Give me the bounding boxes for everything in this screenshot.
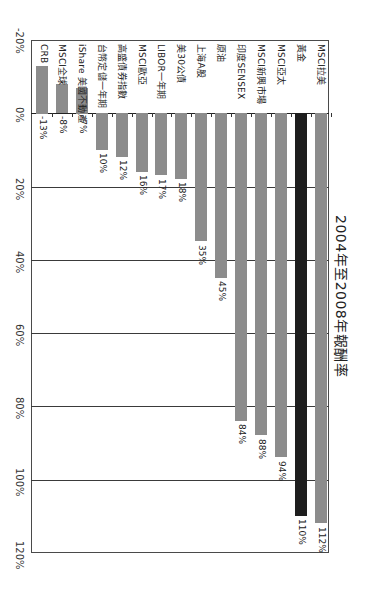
category-label: 原油	[215, 44, 228, 62]
value-label: 94%	[277, 461, 287, 481]
category-label: MSCI亞太	[275, 44, 288, 86]
value-label: -7%	[78, 116, 88, 134]
bar	[36, 66, 48, 114]
category-label: MSCI新興市場	[255, 44, 268, 104]
category-tick	[331, 113, 332, 117]
chart-title: 2004年至2008年報酬率	[332, 215, 352, 377]
category-label: 黃金	[295, 44, 308, 62]
category-tick	[92, 113, 93, 117]
bar	[56, 84, 68, 113]
value-label: 110%	[297, 519, 307, 545]
category-label: MSCI拉美	[315, 44, 328, 86]
y-tick-label: 0%	[14, 107, 25, 123]
bar	[235, 113, 247, 421]
value-label: 112%	[317, 527, 327, 553]
value-label: 12%	[118, 160, 128, 180]
category-tick	[52, 113, 53, 117]
category-label: 高盛債券指數	[116, 44, 129, 99]
bar	[215, 113, 227, 278]
y-tick-label: 120%	[14, 541, 25, 570]
y-tick-label: 80%	[14, 397, 25, 419]
category-tick	[311, 113, 312, 117]
value-label: 16%	[138, 175, 148, 195]
value-label: 88%	[257, 439, 267, 459]
category-label: MSCI歐亞	[136, 44, 149, 86]
category-tick	[231, 113, 232, 117]
value-label: -13%	[38, 116, 48, 139]
bar	[96, 113, 108, 150]
y-tick-label: 100%	[14, 468, 25, 497]
category-tick	[72, 113, 73, 117]
y-tick-label: 60%	[14, 324, 25, 346]
bar	[255, 113, 267, 435]
value-label: 17%	[157, 179, 167, 199]
category-tick	[171, 113, 172, 117]
bar	[275, 113, 287, 457]
value-label: -8%	[58, 116, 68, 134]
bar	[136, 113, 148, 172]
bar-chart: -20%0%20%40%60%80%100%120% CRB-13%MSCI全球…	[0, 0, 365, 596]
category-tick	[112, 113, 113, 117]
y-tick-label: -20%	[14, 28, 25, 54]
category-tick	[251, 113, 252, 117]
bar	[195, 113, 207, 241]
bar	[155, 113, 167, 175]
category-tick	[211, 113, 212, 117]
value-label: 35%	[197, 245, 207, 265]
category-label: 上海A股	[195, 44, 208, 78]
value-label: 18%	[177, 182, 187, 202]
category-label: 台幣定儲一年期	[96, 44, 109, 108]
value-label: 84%	[237, 424, 247, 444]
bar	[315, 113, 327, 523]
bar	[295, 113, 307, 516]
category-tick	[291, 113, 292, 117]
category-label: 美30公債	[175, 44, 188, 83]
value-label: 10%	[98, 153, 108, 173]
category-label: LIBOR一年期	[155, 44, 168, 100]
category-tick	[152, 113, 153, 117]
category-tick	[132, 113, 133, 117]
category-tick	[191, 113, 192, 117]
y-tick-label: 40%	[14, 251, 25, 273]
y-tick-label: 20%	[14, 178, 25, 200]
bar	[116, 113, 128, 157]
category-tick	[271, 113, 272, 117]
value-label: 45%	[217, 281, 227, 301]
category-label: 印度SENSEX	[235, 44, 248, 99]
category-label: MSCI全球	[56, 44, 69, 86]
category-label: CRB	[39, 44, 49, 63]
category-label: iShare 美國不動產	[76, 44, 89, 123]
bar	[175, 113, 187, 179]
